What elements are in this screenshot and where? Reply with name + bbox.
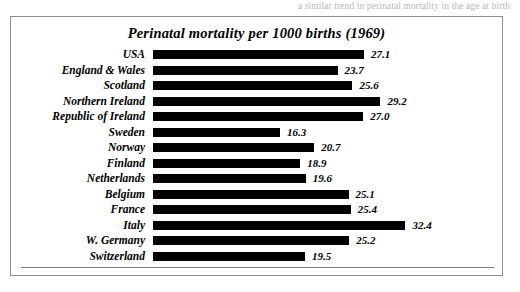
bar xyxy=(153,66,338,75)
bar-row: Switzerland19.5 xyxy=(11,249,504,265)
category-label: England & Wales xyxy=(11,63,151,79)
category-label: W. Germany xyxy=(11,233,151,249)
figure-frame: Perinatal mortality per 1000 births (196… xyxy=(10,16,503,276)
bar-row: Belgium25.1 xyxy=(11,187,504,203)
chart-title: Perinatal mortality per 1000 births (196… xyxy=(11,25,502,42)
bar-value-label: 32.4 xyxy=(412,218,431,234)
bar-row: Northern Ireland29.2 xyxy=(11,94,504,110)
category-label: Belgium xyxy=(11,187,151,203)
bar-row: England & Wales23.7 xyxy=(11,63,504,79)
category-label: France xyxy=(11,202,151,218)
bar-value-label: 29.2 xyxy=(387,94,406,110)
bar xyxy=(153,159,300,168)
bar-row: USA27.1 xyxy=(11,47,504,63)
bar-row: Italy32.4 xyxy=(11,218,504,234)
bar-value-label: 27.1 xyxy=(371,47,390,63)
bar-row: W. Germany25.2 xyxy=(11,233,504,249)
category-label: Switzerland xyxy=(11,249,151,265)
category-label: Netherlands xyxy=(11,171,151,187)
bar-value-label: 25.6 xyxy=(359,78,378,94)
bar-row: Scotland25.6 xyxy=(11,78,504,94)
bar-value-label: 25.1 xyxy=(356,187,375,203)
page-bleed-text: a similar trend in perinatal mortality i… xyxy=(0,0,520,12)
bar-row: France25.4 xyxy=(11,202,504,218)
category-label: USA xyxy=(11,47,151,63)
bar-row: Sweden16.3 xyxy=(11,125,504,141)
bar-row: Norway20.7 xyxy=(11,140,504,156)
bar xyxy=(153,50,364,59)
bar-value-label: 18.9 xyxy=(307,156,326,172)
bar xyxy=(153,81,352,90)
bar-chart-plot: USA27.1England & Wales23.7Scotland25.6No… xyxy=(11,45,504,273)
category-label: Italy xyxy=(11,218,151,234)
x-axis-line xyxy=(21,267,494,268)
bar-row: Netherlands19.6 xyxy=(11,171,504,187)
category-label: Scotland xyxy=(11,78,151,94)
bar-row: Finland18.9 xyxy=(11,156,504,172)
bar xyxy=(153,236,349,245)
bar-value-label: 23.7 xyxy=(345,63,364,79)
bar xyxy=(153,221,405,230)
bar-value-label: 19.6 xyxy=(313,171,332,187)
category-label: Finland xyxy=(11,156,151,172)
bar-value-label: 25.2 xyxy=(356,233,375,249)
bar-value-label: 20.7 xyxy=(321,140,340,156)
bar xyxy=(153,205,351,214)
bar xyxy=(153,128,280,137)
bar-value-label: 27.0 xyxy=(370,109,389,125)
bar xyxy=(153,97,380,106)
bar xyxy=(153,143,314,152)
category-label: Sweden xyxy=(11,125,151,141)
category-label: Norway xyxy=(11,140,151,156)
bar xyxy=(153,112,363,121)
bar-row: Republic of Ireland27.0 xyxy=(11,109,504,125)
bar-value-label: 25.4 xyxy=(358,202,377,218)
bar xyxy=(153,252,305,261)
bar xyxy=(153,190,349,199)
category-label: Northern Ireland xyxy=(11,94,151,110)
bar-value-label: 19.5 xyxy=(312,249,331,265)
category-label: Republic of Ireland xyxy=(11,109,151,125)
bar xyxy=(153,174,306,183)
bar-value-label: 16.3 xyxy=(287,125,306,141)
